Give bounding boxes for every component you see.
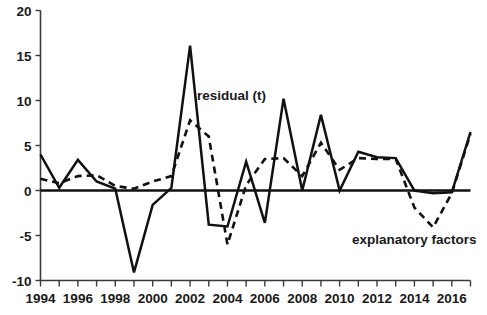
x-tick-label: 1994 <box>25 291 56 306</box>
x-axis-ticks <box>41 281 471 287</box>
series-explanatory-factors-line <box>41 120 471 244</box>
y-tick-label: -10 <box>12 274 32 289</box>
y-tick-label: -5 <box>19 229 31 244</box>
x-tick-label: 2000 <box>138 291 168 306</box>
x-tick-label: 2002 <box>175 291 205 306</box>
y-tick-label: 5 <box>24 139 32 154</box>
x-axis <box>41 281 471 287</box>
y-axis <box>36 11 41 281</box>
x-tick-label: 2004 <box>212 291 243 306</box>
x-axis-tick-labels: 1994199619982000200220042006200820102012… <box>25 291 467 306</box>
line-chart: -10-505101520 19941996199820002002200420… <box>0 0 487 315</box>
explanatory-factors-label: explanatory factors <box>352 232 477 247</box>
y-axis-tick-labels: -10-505101520 <box>12 4 32 289</box>
residual-label: residual (t) <box>197 88 266 103</box>
x-tick-label: 1996 <box>63 291 94 306</box>
y-tick-label: 10 <box>16 94 31 109</box>
y-tick-label: 15 <box>16 49 32 64</box>
x-tick-label: 2008 <box>287 291 318 306</box>
y-tick-label: 20 <box>16 4 31 19</box>
x-tick-label: 2012 <box>362 291 392 306</box>
x-tick-label: 2006 <box>250 291 281 306</box>
x-tick-label: 2014 <box>399 291 430 306</box>
x-tick-label: 2016 <box>437 291 468 306</box>
x-tick-label: 1998 <box>100 291 131 306</box>
chart-container: -10-505101520 19941996199820002002200420… <box>0 0 487 315</box>
y-tick-label: 0 <box>24 184 32 199</box>
x-tick-label: 2010 <box>325 291 355 306</box>
